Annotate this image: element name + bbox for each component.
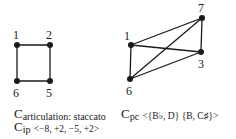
node-label-6: 6 (13, 86, 19, 100)
node-label-1: 1 (124, 29, 130, 43)
caption-ip: Cip <−8, +2, −5, +2> (14, 120, 99, 135)
caption-ip-value: <−8, +2, −5, +2> (34, 124, 99, 134)
caption-pc-main: C (121, 106, 130, 121)
caption-ip-main: C (14, 119, 23, 134)
node-1 (14, 42, 20, 48)
node-5 (47, 78, 53, 84)
edge-6-3 (130, 52, 201, 79)
node-6 (127, 76, 133, 82)
node-label-2: 2 (46, 28, 52, 42)
node-2 (47, 42, 53, 48)
caption-pc: Cpc <{B♭, D} {B, C♯}> (121, 107, 218, 122)
node-label-5: 5 (46, 86, 52, 100)
node-label-6: 6 (126, 84, 132, 98)
edge-1-6 (130, 45, 131, 79)
caption-pc-value: <{B♭, D} {B, C♯}> (142, 111, 218, 121)
node-3 (198, 49, 204, 55)
pitch-class-graph: 7136 (124, 1, 205, 98)
caption-pc-sub: pc (130, 111, 139, 122)
edge-6-7 (130, 18, 202, 79)
node-7 (199, 15, 205, 21)
node-label-7: 7 (198, 1, 204, 15)
articulation-graph: 1256 (13, 28, 53, 100)
edge-1-7 (131, 18, 202, 45)
edge-7-3 (201, 18, 202, 52)
node-label-1: 1 (13, 28, 19, 42)
caption-ip-sub: ip (23, 124, 31, 135)
node-label-3: 3 (198, 57, 204, 71)
node-6 (14, 78, 20, 84)
caption-articulation: Carticulation: staccato (14, 107, 106, 121)
